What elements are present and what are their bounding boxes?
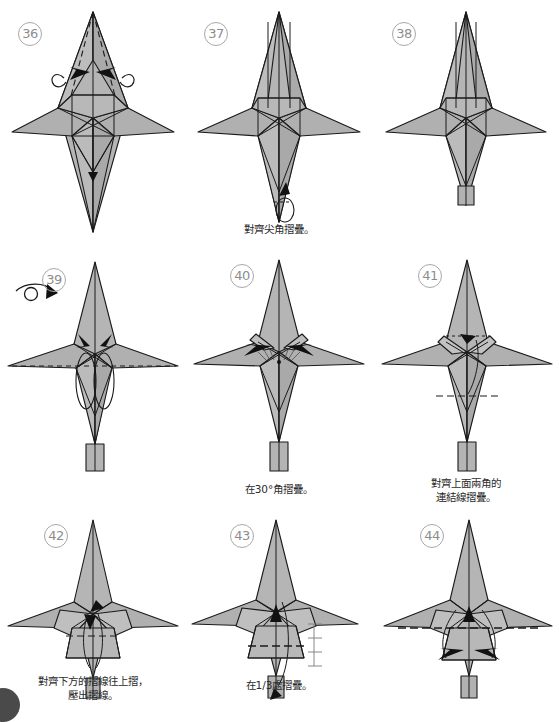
third-measure-marks: [308, 624, 322, 666]
step-figure-39: [0, 256, 186, 518]
step-panel-38: 38: [372, 0, 559, 256]
step-panel-39: 39: [0, 256, 186, 518]
step-panel-36: 36: [0, 0, 186, 256]
step-number-40: 40: [230, 264, 254, 288]
step-number-44: 44: [420, 524, 444, 548]
pivot-dot: [277, 360, 281, 364]
step-number-42: 42: [44, 524, 68, 548]
step-caption-41: 對齊上面兩角的 連結線摺疊。: [372, 476, 559, 504]
step-number-41: 41: [418, 264, 442, 288]
step-caption-42: 對齊下方的摺線往上摺， 壓出摺線。: [0, 674, 186, 702]
step-number-37: 37: [204, 22, 228, 46]
step-panel-43: 43 在1/3處摺疊。: [186, 518, 372, 712]
step-caption-40: 在30°角摺疊。: [186, 482, 372, 496]
step-panel-44: 44: [372, 518, 559, 712]
step-panel-41: 41 對齊上面兩角的 連結線摺疊。: [372, 256, 559, 518]
step-number-43: 43: [230, 524, 254, 548]
step-panel-42: 42 對齊下方的摺線往上摺， 壓出摺線。: [0, 518, 186, 712]
curl-arrow-left: [52, 75, 66, 87]
step-number-36: 36: [18, 22, 42, 46]
curl-arrow-right: [120, 75, 134, 87]
step-panel-37: 37 對齊尖角摺疊。: [186, 0, 372, 256]
step-panel-40: 40 在30°角摺疊。: [186, 256, 372, 518]
step-number-38: 38: [392, 22, 416, 46]
step-figure-44: [372, 518, 559, 712]
step-caption-37: 對齊尖角摺疊。: [186, 222, 372, 236]
step-figure-40: [186, 256, 372, 518]
step-number-39: 39: [42, 268, 66, 292]
step-caption-43: 在1/3處摺疊。: [186, 678, 372, 692]
